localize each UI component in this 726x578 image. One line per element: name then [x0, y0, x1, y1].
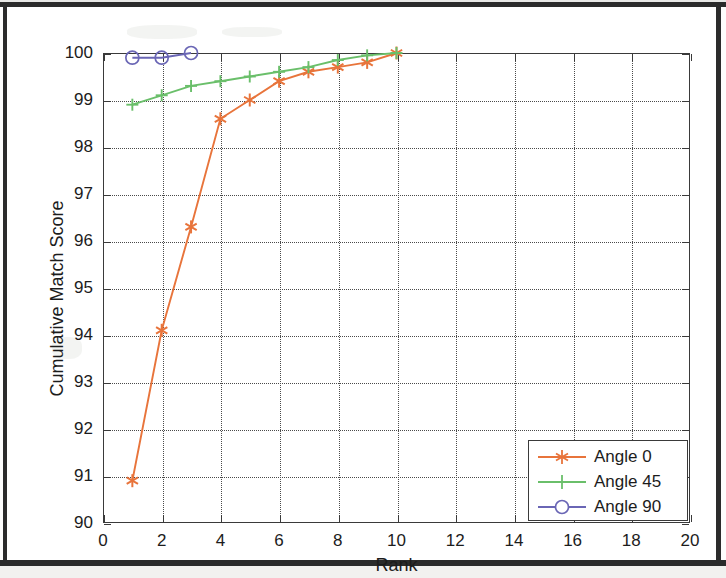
asterisk-marker: [215, 112, 226, 125]
scanned-page-frame: 0246810121416182090919293949596979899100…: [0, 0, 726, 578]
x-tick-label: 4: [216, 531, 225, 551]
plus-marker: [156, 89, 168, 101]
asterisk-icon: [536, 446, 588, 468]
x-tick-label: 6: [274, 531, 283, 551]
series-line: [132, 53, 396, 105]
y-axis-label: Cumulative Match Score: [47, 139, 68, 459]
x-tick-label: 18: [622, 531, 641, 551]
x-tick-label: 16: [563, 531, 582, 551]
legend-label: Angle 45: [594, 472, 661, 492]
x-tick-label: 8: [333, 531, 342, 551]
x-tick-label: 14: [504, 531, 523, 551]
legend-item-angle-90[interactable]: Angle 90: [529, 494, 687, 519]
plus-marker: [391, 47, 403, 59]
x-axis-tick: [691, 515, 692, 522]
asterisk-marker: [127, 474, 138, 487]
circle-icon: [536, 496, 588, 518]
asterisk-marker: [156, 324, 167, 337]
legend-label: Angle 90: [594, 497, 661, 517]
y-axis-tick: [682, 524, 689, 525]
asterisk-marker: [185, 220, 196, 233]
x-tick-label: 12: [446, 531, 465, 551]
chart-legend: Angle 0 Angle 45: [528, 440, 688, 521]
y-axis-tick: [104, 524, 111, 525]
legend-item-angle-45[interactable]: Angle 45: [529, 469, 687, 494]
x-axis-tick: [691, 54, 692, 61]
page-border-right: [716, 2, 721, 566]
y-tick-label: 90: [45, 513, 93, 533]
series-angle-90: [126, 47, 198, 65]
y-tick-label: 91: [45, 466, 93, 486]
plus-marker: [244, 71, 256, 83]
plus-marker: [214, 75, 226, 87]
plus-marker: [185, 80, 197, 92]
x-tick-label: 0: [98, 531, 107, 551]
x-tick-label: 2: [157, 531, 166, 551]
plus-marker: [126, 99, 138, 111]
series-angle-0: [127, 47, 402, 488]
x-axis-label: Rank: [103, 555, 690, 576]
y-tick-label: 100: [45, 43, 93, 63]
plus-marker: [273, 66, 285, 78]
legend-label: Angle 0: [594, 447, 652, 467]
asterisk-marker: [244, 94, 255, 107]
x-tick-label: 10: [387, 531, 406, 551]
chart-figure: 0246810121416182090919293949596979899100…: [7, 7, 716, 560]
scan-artifact: [127, 25, 197, 39]
y-tick-label: 99: [45, 90, 93, 110]
plus-icon: [536, 471, 588, 493]
legend-item-angle-0[interactable]: Angle 0: [529, 444, 687, 469]
series-line: [132, 53, 396, 481]
scan-artifact: [222, 27, 282, 37]
x-tick-label: 20: [681, 531, 700, 551]
series-line: [132, 53, 191, 58]
